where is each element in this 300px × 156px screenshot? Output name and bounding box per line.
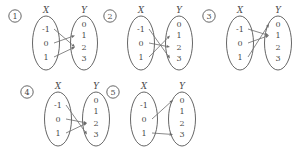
codomain-element: 1 [176, 31, 181, 40]
diagram-index-label: 2 [107, 12, 112, 21]
codomain-element: 0 [179, 96, 184, 105]
domain-element: 0 [138, 39, 143, 48]
mapping-diagram-2: 2XY-1010123 [101, 2, 195, 76]
codomain-element: 3 [81, 54, 86, 63]
mapping-arrow-4-1-line [66, 119, 84, 122]
codomain-element: 1 [93, 107, 98, 116]
codomain-element: 2 [179, 119, 184, 128]
codomain-element: 1 [81, 31, 86, 40]
codomain-set-label: Y [176, 5, 183, 15]
codomain-element: 0 [81, 20, 86, 29]
domain-element: 1 [43, 53, 48, 62]
domain-set-label: X [140, 81, 148, 91]
diagram-index-label: 3 [206, 12, 211, 21]
codomain-set-label: Y [179, 81, 186, 91]
mapping-arrow-3-1-head [265, 35, 269, 38]
domain-element: -1 [54, 101, 62, 110]
domain-set-label: X [137, 5, 145, 15]
mapping-diagram-5: 5XY-1010123 [104, 78, 198, 152]
codomain-set-label: Y [81, 5, 88, 15]
mapping-arrow-1-1-head [71, 35, 75, 38]
domain-element: 0 [55, 115, 60, 124]
codomain-element: 2 [275, 43, 280, 52]
mapping-arrow-2-1-head [166, 45, 170, 48]
codomain-element: 0 [93, 96, 98, 105]
domain-element: -1 [140, 101, 148, 110]
domain-element: 1 [138, 53, 143, 62]
mapping-diagram-1: 1XY-1010123 [6, 2, 100, 76]
domain-element: -1 [42, 25, 50, 34]
codomain-set-label: Y [93, 81, 100, 91]
codomain-element: 1 [275, 31, 280, 40]
domain-set-label: X [42, 5, 50, 15]
domain-element: -1 [137, 25, 145, 34]
domain-element: 1 [141, 129, 146, 138]
codomain-element: 2 [93, 119, 98, 128]
mapping-arrow-2-1-line [149, 43, 167, 46]
codomain-element: 3 [179, 130, 184, 139]
domain-set-label: X [236, 5, 244, 15]
domain-element: 0 [237, 39, 242, 48]
mapping-diagram-board: 1XY-10101232XY-10101233XY-10101234XY-101… [0, 0, 300, 156]
mapping-diagram-4: 4XY-1010123 [18, 78, 112, 152]
codomain-element: 3 [93, 130, 98, 139]
codomain-element: 2 [81, 43, 86, 52]
mapping-arrow-5-0-line [152, 102, 170, 119]
domain-element: 1 [55, 129, 60, 138]
codomain-element: 2 [176, 43, 181, 52]
diagram-index-label: 5 [110, 88, 115, 97]
domain-element: 0 [141, 115, 146, 124]
mapping-arrow-4-2-line [66, 124, 84, 133]
domain-element: 1 [237, 53, 242, 62]
codomain-element: 0 [275, 20, 280, 29]
domain-element: 0 [43, 39, 48, 48]
domain-element: -1 [236, 25, 244, 34]
mapping-diagram-3: 3XY-1010123 [200, 2, 294, 76]
codomain-element: 3 [176, 54, 181, 63]
codomain-element: 0 [176, 20, 181, 29]
codomain-set-label: Y [275, 5, 282, 15]
diagram-index-label: 1 [12, 12, 17, 21]
mapping-arrow-1-2-line [54, 48, 72, 57]
diagram-index-label: 4 [24, 88, 29, 97]
mapping-arrow-3-1-line [248, 37, 266, 43]
domain-set-label: X [54, 81, 62, 91]
codomain-element: 1 [179, 107, 184, 116]
codomain-element: 3 [275, 54, 280, 63]
mapping-arrow-5-1-line [152, 133, 170, 134]
mapping-arrow-2-2-line [149, 38, 168, 57]
